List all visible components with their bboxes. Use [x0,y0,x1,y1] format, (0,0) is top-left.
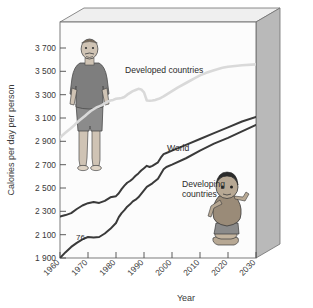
chart-figure: 1 900 2 100 2 300 2 500 2 700 2 900 3 10… [0,0,313,308]
box-right-face [256,8,280,258]
calories-line-chart: 1 900 2 100 2 300 2 500 2 700 2 900 3 10… [0,0,313,308]
y-tick-label: 3 100 [35,113,56,123]
y-tick-label: 2 300 [35,206,56,216]
x-tick-label: 1970 [69,257,89,277]
y-tick-label: 2 700 [35,160,56,170]
x-axis-title: Year [177,293,195,303]
y-tick-label: 2 500 [35,183,56,193]
y-tick-label: 3 300 [35,90,56,100]
box-top-face [60,8,280,22]
series-label-developing-line2: countries [182,189,217,199]
y-tick-label: 3 500 [35,66,56,76]
x-tick-label: 1990 [125,257,145,277]
y-tick-label: 2 100 [35,230,56,240]
y-tick-labels: 1 900 2 100 2 300 2 500 2 700 2 900 3 10… [35,43,56,263]
x-tick-label: 1980 [97,257,117,277]
series-label-developed: Developed countries [125,65,203,75]
series-label-world: World [167,143,190,153]
x-tick-label: 2010 [181,257,201,277]
x-tick-labels: 1960 1970 1980 1990 2000 2010 2020 2030 [41,257,257,277]
x-tick-label: 2030 [237,257,257,277]
x-tick-label: 2020 [209,257,229,277]
series-label-developing-line1: Developing [182,179,225,189]
y-tick-label: 2 900 [35,136,56,146]
x-tick-label: 2000 [153,257,173,277]
y-tick-label: 3 700 [35,43,56,53]
y-axis-title: Calories per day per person [6,84,16,195]
annotation-76: 76 [76,233,85,242]
